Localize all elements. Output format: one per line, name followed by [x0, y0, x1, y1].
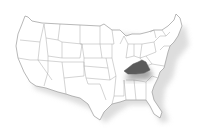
us-map	[0, 0, 199, 136]
us-map-svg	[0, 0, 199, 136]
